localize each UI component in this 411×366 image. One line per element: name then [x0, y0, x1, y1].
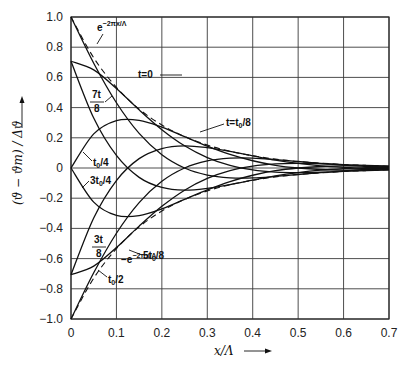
y-tick-label: −0.2 [39, 191, 63, 205]
x-axis-label: x/Λ [214, 344, 234, 358]
svg-text:(ϑ − ϑm) / Δϑ: (ϑ − ϑm) / Δϑ [11, 120, 25, 205]
x-tick-label: 0.1 [108, 326, 125, 340]
y-tick-label: 1.0 [46, 10, 63, 24]
x-axis-arrow-icon [244, 349, 272, 354]
annotation-t-0: t=0 [138, 69, 182, 80]
svg-text:t=t0/8: t=t0/8 [226, 117, 251, 129]
y-axis-label: (ϑ − ϑm) / Δϑ [11, 120, 25, 205]
svg-text:3t: 3t [94, 234, 104, 245]
y-tick-label: −0.6 [39, 252, 63, 266]
x-tick-label: 0.4 [244, 326, 261, 340]
curve-e-2-x- [71, 17, 389, 166]
svg-text:e−2πx/Λ: e−2πx/Λ [97, 20, 127, 33]
curve-5t0-8 [71, 163, 389, 274]
annotation-t-1-2: t0/2 [98, 270, 124, 286]
annotation-t-1-4: t0/4 [83, 152, 109, 169]
chart: 1.00.80.60.40.20−0.2−0.4−0.6−0.8−1.0 00.… [0, 0, 411, 366]
svg-text:3t0/4: 3t0/4 [90, 175, 112, 187]
x-tick-label: 0 [68, 326, 75, 340]
svg-text:t0/2: t0/2 [108, 274, 124, 286]
svg-text:−e−2πx/Λ: −e−2πx/Λ [121, 252, 157, 265]
annotation-t-7-8: 7t 8 [90, 89, 112, 114]
x-tick-label: 0.7 [381, 326, 398, 340]
x-tick-label: 0.3 [199, 326, 216, 340]
y-tick-labels: 1.00.80.60.40.20−0.2−0.4−0.6−0.8−1.0 [39, 10, 63, 326]
x-tick-label: 0.6 [335, 326, 352, 340]
annotation-t-3-4: 3t0/4 [82, 175, 112, 188]
curve--e-2-x- [71, 170, 389, 319]
x-tick-label: 0.2 [154, 326, 171, 340]
y-tick-label: −1.0 [39, 312, 63, 326]
y-tick-label: 0.2 [46, 131, 63, 145]
svg-text:t=0: t=0 [138, 69, 153, 80]
x-tick-labels: 00.10.20.30.40.50.60.7 [68, 326, 398, 340]
y-tick-label: 0.4 [46, 101, 63, 115]
y-tick-label: 0.6 [46, 70, 63, 84]
y-tick-label: 0 [56, 161, 63, 175]
x-tick-label: 0.5 [290, 326, 307, 340]
annotation-envelope-positive: e−2πx/Λ [97, 20, 127, 44]
svg-text:8: 8 [96, 248, 102, 259]
y-tick-label: −0.4 [39, 221, 63, 235]
y-tick-label: −0.8 [39, 282, 63, 296]
curve-3t0-4 [71, 166, 389, 217]
y-tick-label: 0.8 [46, 40, 63, 54]
svg-text:t0/4: t0/4 [93, 157, 109, 169]
annotation-envelope-negative: −e−2πx/Λ [121, 252, 157, 265]
svg-text:7t: 7t [92, 89, 102, 100]
svg-text:8: 8 [94, 103, 100, 114]
